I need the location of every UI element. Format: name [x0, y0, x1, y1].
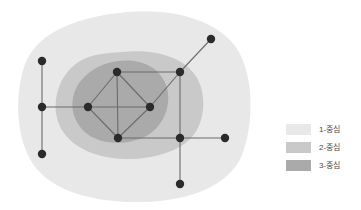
- graph-node[interactable]: [221, 134, 229, 142]
- legend-item: 3-중심: [286, 160, 358, 171]
- legend: 1-중심 2-중심 3-중심: [286, 124, 358, 171]
- graph-node[interactable]: [38, 150, 46, 158]
- network-diagram-figure: 1-중심 2-중심 3-중심: [0, 0, 361, 210]
- legend-swatch-3: [286, 160, 311, 171]
- legend-label-2: 2-중심: [319, 142, 341, 153]
- legend-label-1: 1-중심: [319, 124, 341, 135]
- graph-node[interactable]: [84, 103, 92, 111]
- legend-swatch-2: [286, 142, 311, 153]
- graph-node[interactable]: [38, 57, 46, 65]
- graph-node[interactable]: [176, 134, 184, 142]
- legend-item: 1-중심: [286, 124, 358, 135]
- graph-node[interactable]: [114, 134, 122, 142]
- legend-item: 2-중심: [286, 142, 358, 153]
- graph-node[interactable]: [113, 68, 121, 76]
- legend-swatch-1: [286, 124, 311, 135]
- graph-node[interactable]: [176, 68, 184, 76]
- graph-node[interactable]: [176, 180, 184, 188]
- graph-canvas: [0, 0, 270, 210]
- legend-label-3: 3-중심: [319, 160, 341, 171]
- graph-node[interactable]: [146, 103, 154, 111]
- graph-node[interactable]: [207, 35, 215, 43]
- graph-node[interactable]: [38, 103, 46, 111]
